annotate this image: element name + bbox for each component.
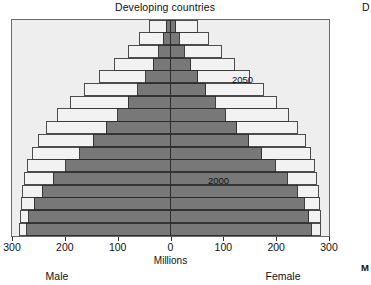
x-axis-tick-label: 300 [0,241,32,253]
x-axis-tick-label: 200 [256,241,296,253]
pyramid-bars [12,20,329,236]
adjacent-chart-axis-fragment: M [361,262,369,273]
x-axis-tick-label: 100 [98,241,138,253]
x-axis-tick-label: 200 [45,241,85,253]
x-axis-title: Millions [11,255,330,266]
series-label-2000: 2000 [208,175,229,186]
series-label-2050: 2050 [232,74,253,85]
female-side-label: Female [243,270,323,282]
page-title: Developing countries [0,1,330,13]
plot-area [11,19,330,237]
population-pyramid-figure: Developing countries D M 2050 2000 30020… [0,0,371,285]
x-axis-tick-label: 0 [151,241,191,253]
x-axis-tick-label: 300 [309,241,349,253]
male-side-label: Male [17,270,97,282]
x-axis-tick-label: 100 [203,241,243,253]
adjacent-chart-title-fragment: D [362,1,370,13]
x-axis-tick-labels: 3002001000100200300 [0,241,341,254]
